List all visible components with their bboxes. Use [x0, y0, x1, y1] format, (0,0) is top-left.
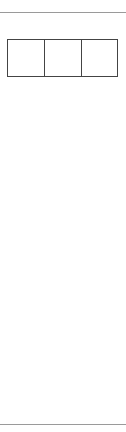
answer-box-tens[interactable] — [44, 39, 82, 77]
answer-box-units[interactable] — [81, 39, 118, 77]
answer-box-hundreds[interactable] — [7, 39, 45, 77]
top-rule — [0, 12, 126, 13]
bottom-rule — [0, 424, 126, 425]
